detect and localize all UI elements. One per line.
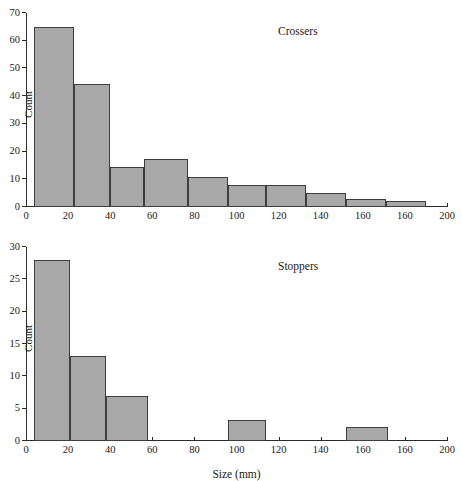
x-tick-stoppers-0 bbox=[26, 437, 27, 441]
histogram-bar bbox=[266, 185, 306, 207]
x-tick-label-crossers-8: 160 bbox=[355, 211, 371, 222]
x-tick-stoppers-9 bbox=[405, 437, 406, 441]
x-tick-label-crossers-10: 200 bbox=[439, 211, 455, 222]
y-tick-stoppers-4 bbox=[22, 311, 26, 312]
x-tick-label-stoppers-1: 20 bbox=[63, 445, 74, 456]
y-tick-crossers-2 bbox=[22, 151, 26, 152]
series-label-stoppers: Stoppers bbox=[278, 261, 318, 273]
y-axis-title-stoppers: Count bbox=[23, 319, 34, 359]
y-tick-stoppers-1 bbox=[22, 408, 26, 409]
x-tick-stoppers-4 bbox=[194, 437, 195, 441]
y-tick-stoppers-3 bbox=[22, 343, 26, 344]
y-tick-crossers-1 bbox=[22, 178, 26, 179]
histogram-bar bbox=[34, 27, 74, 207]
y-tick-crossers-6 bbox=[22, 40, 26, 41]
y-tick-label-crossers-3: 30 bbox=[10, 119, 21, 130]
plot-area-stoppers: Count Stoppers Size (mm) 051015202530020… bbox=[26, 247, 447, 441]
y-axis-title-crossers: Count bbox=[23, 85, 34, 125]
y-tick-label-crossers-0: 0 bbox=[15, 202, 20, 213]
y-tick-label-stoppers-6: 30 bbox=[10, 242, 21, 253]
histogram-bar bbox=[386, 201, 426, 207]
histogram-bar bbox=[34, 260, 70, 441]
y-tick-label-stoppers-1: 5 bbox=[15, 403, 20, 414]
histogram-bar bbox=[346, 427, 388, 441]
x-tick-crossers-0 bbox=[26, 203, 27, 207]
x-tick-stoppers-3 bbox=[152, 437, 153, 441]
x-tick-crossers-10 bbox=[447, 203, 448, 207]
x-tick-label-stoppers-4: 80 bbox=[189, 445, 200, 456]
x-tick-label-crossers-7: 140 bbox=[313, 211, 329, 222]
histogram-bar bbox=[306, 193, 346, 207]
y-tick-crossers-3 bbox=[22, 123, 26, 124]
y-tick-crossers-5 bbox=[22, 67, 26, 68]
plot-area-crossers: Count Crossers 0102030405060700204060801… bbox=[26, 13, 447, 207]
y-tick-label-crossers-1: 10 bbox=[10, 174, 21, 185]
histogram-bar bbox=[346, 199, 386, 207]
x-tick-label-stoppers-5: 100 bbox=[229, 445, 245, 456]
y-tick-label-stoppers-0: 0 bbox=[15, 436, 20, 447]
x-tick-label-crossers-4: 80 bbox=[189, 211, 200, 222]
x-tick-label-crossers-9: 160 bbox=[397, 211, 413, 222]
histogram-bar bbox=[74, 84, 110, 207]
histogram-bar bbox=[228, 420, 266, 441]
x-tick-label-stoppers-2: 40 bbox=[105, 445, 116, 456]
y-tick-label-stoppers-4: 20 bbox=[10, 306, 21, 317]
histogram-bar bbox=[188, 177, 228, 207]
y-tick-crossers-4 bbox=[22, 95, 26, 96]
chart-panel-crossers: Count Crossers 0102030405060700204060801… bbox=[0, 0, 462, 232]
y-tick-label-stoppers-5: 25 bbox=[10, 274, 21, 285]
x-tick-label-stoppers-7: 140 bbox=[313, 445, 329, 456]
y-tick-label-crossers-5: 50 bbox=[10, 63, 21, 74]
series-label-crossers: Crossers bbox=[278, 26, 318, 38]
x-tick-label-crossers-6: 120 bbox=[271, 211, 287, 222]
x-tick-label-stoppers-6: 120 bbox=[271, 445, 287, 456]
x-tick-label-crossers-2: 40 bbox=[105, 211, 116, 222]
x-tick-label-stoppers-0: 0 bbox=[23, 445, 28, 456]
x-tick-label-crossers-1: 20 bbox=[63, 211, 74, 222]
x-tick-label-stoppers-9: 160 bbox=[397, 445, 413, 456]
x-axis-title-stoppers: Size (mm) bbox=[26, 469, 447, 481]
x-tick-label-stoppers-8: 160 bbox=[355, 445, 371, 456]
y-tick-label-crossers-4: 40 bbox=[10, 91, 21, 102]
x-tick-label-stoppers-3: 60 bbox=[147, 445, 158, 456]
y-tick-label-crossers-2: 20 bbox=[10, 146, 21, 157]
histogram-bar bbox=[110, 167, 144, 207]
x-tick-label-crossers-5: 100 bbox=[229, 211, 245, 222]
y-tick-stoppers-6 bbox=[22, 246, 26, 247]
y-tick-label-crossers-6: 60 bbox=[10, 35, 21, 46]
histogram-bar bbox=[70, 356, 106, 441]
x-tick-label-crossers-3: 60 bbox=[147, 211, 158, 222]
chart-panel-stoppers: Count Stoppers Size (mm) 051015202530020… bbox=[0, 234, 462, 478]
y-tick-label-stoppers-2: 10 bbox=[10, 371, 21, 382]
x-tick-label-stoppers-10: 200 bbox=[439, 445, 455, 456]
histogram-bar bbox=[106, 396, 148, 441]
x-tick-stoppers-7 bbox=[321, 437, 322, 441]
histogram-bar bbox=[144, 159, 188, 208]
y-tick-crossers-7 bbox=[22, 12, 26, 13]
y-tick-stoppers-5 bbox=[22, 278, 26, 279]
y-tick-label-stoppers-3: 15 bbox=[10, 339, 21, 350]
x-tick-label-crossers-0: 0 bbox=[23, 211, 28, 222]
y-tick-label-crossers-7: 70 bbox=[10, 8, 21, 19]
y-tick-stoppers-2 bbox=[22, 375, 26, 376]
x-tick-stoppers-10 bbox=[447, 437, 448, 441]
histogram-bar bbox=[228, 185, 266, 207]
x-tick-stoppers-6 bbox=[279, 437, 280, 441]
